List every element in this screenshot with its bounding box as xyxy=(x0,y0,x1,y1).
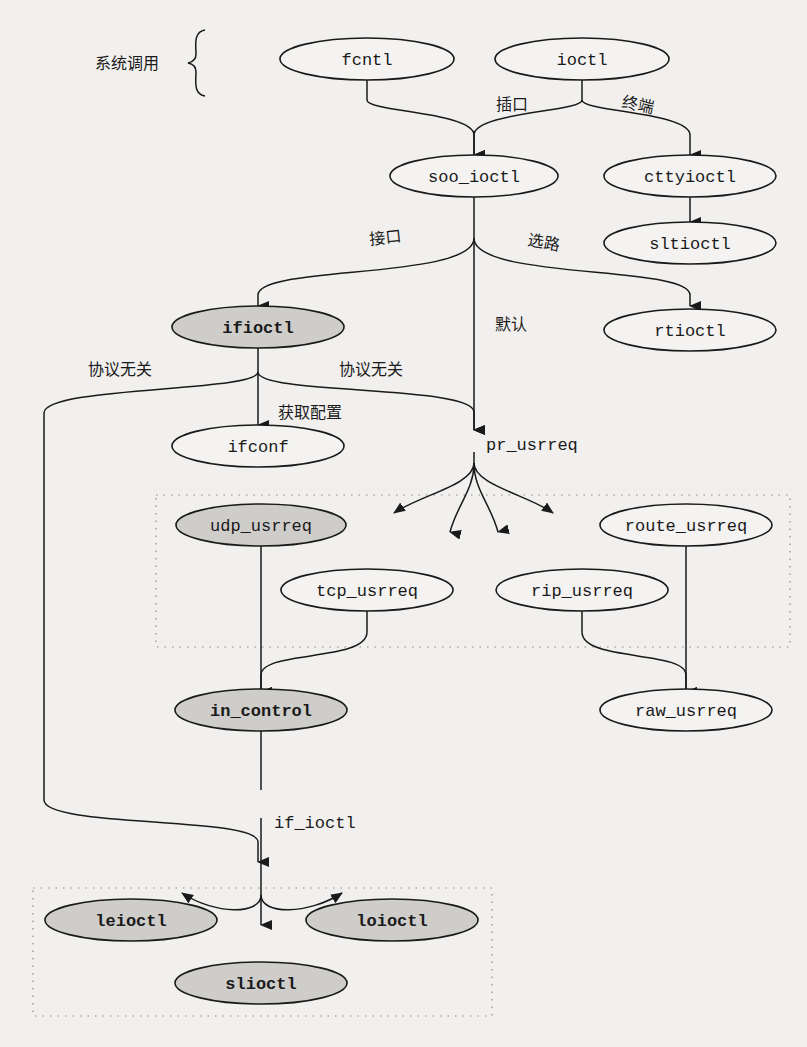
svg-text:loioctl: loioctl xyxy=(356,912,427,931)
svg-text:ifioctl: ifioctl xyxy=(222,319,293,338)
node-route_usrreq: route_usrreq xyxy=(600,504,772,546)
node-ifioctl: ifioctl xyxy=(172,306,344,348)
node-fcntl: fcntl xyxy=(280,38,454,80)
edge-label-routing: 选路 xyxy=(526,230,561,254)
edge-label-socket: 插口 xyxy=(496,95,528,114)
node-slioctl: slioctl xyxy=(175,962,347,1004)
node-udp_usrreq: udp_usrreq xyxy=(176,504,346,546)
edge-soo_ioctl-ifioctl xyxy=(258,192,474,306)
svg-text:ioctl: ioctl xyxy=(556,51,607,70)
node-rtioctl: rtioctl xyxy=(604,309,776,351)
node-tcp_usrreq: tcp_usrreq xyxy=(281,569,453,611)
svg-text:cttyioctl: cttyioctl xyxy=(644,168,736,187)
svg-text:rtioctl: rtioctl xyxy=(654,322,725,341)
edge-label-terminal: 终端 xyxy=(620,92,655,117)
node-rip_usrreq: rip_usrreq xyxy=(496,569,668,611)
svg-text:in_control: in_control xyxy=(210,702,312,721)
edge-label-proto-independent-left: 协议无关 xyxy=(88,360,152,379)
svg-text:fcntl: fcntl xyxy=(341,51,392,70)
node-ioctl: ioctl xyxy=(495,38,669,80)
svg-text:sltioctl: sltioctl xyxy=(649,235,731,254)
edge-tcp_usrreq-in_control xyxy=(261,611,367,692)
node-cttyioctl: cttyioctl xyxy=(604,155,776,197)
svg-text:udp_usrreq: udp_usrreq xyxy=(210,517,312,536)
svg-text:route_usrreq: route_usrreq xyxy=(625,517,747,536)
edge-label-default: 默认 xyxy=(495,315,527,334)
svg-text:ifconf: ifconf xyxy=(227,438,288,457)
edge-rip_usrreq-raw_usrreq xyxy=(582,611,686,692)
svg-text:rip_usrreq: rip_usrreq xyxy=(531,582,633,601)
syscall-label: 系统调用 xyxy=(95,54,159,73)
node-sltioctl: sltioctl xyxy=(604,222,776,264)
node-pr_usrreq: pr_usrreq xyxy=(486,436,578,455)
ioctl-call-graph: 系统调用 插口 终端 接口 选路 默认 协议无关 协议无关 获取配置 xyxy=(0,0,807,1047)
edge-ioctl-soo_ioctl xyxy=(474,80,582,155)
edge-label-proto-independent-right: 协议无关 xyxy=(339,360,403,379)
edge-pr_usrreq-fan-4 xyxy=(474,463,553,513)
svg-text:tcp_usrreq: tcp_usrreq xyxy=(316,582,418,601)
edge-fcntl-soo_ioctl xyxy=(367,80,474,155)
node-if_ioctl: if_ioctl xyxy=(274,814,356,833)
node-ifconf: ifconf xyxy=(172,425,344,467)
node-loioctl: loioctl xyxy=(306,899,478,941)
node-leioctl: leioctl xyxy=(45,899,217,941)
svg-text:soo_ioctl: soo_ioctl xyxy=(428,168,520,187)
svg-text:raw_usrreq: raw_usrreq xyxy=(635,702,737,721)
svg-text:leioctl: leioctl xyxy=(95,912,166,931)
edge-label-get-config: 获取配置 xyxy=(278,403,342,422)
node-soo_ioctl: soo_ioctl xyxy=(390,155,558,197)
edge-label-interface: 接口 xyxy=(368,227,402,249)
brace-icon xyxy=(188,30,205,96)
node-raw_usrreq: raw_usrreq xyxy=(600,689,772,731)
svg-text:slioctl: slioctl xyxy=(225,975,296,994)
node-in_control: in_control xyxy=(175,689,347,731)
